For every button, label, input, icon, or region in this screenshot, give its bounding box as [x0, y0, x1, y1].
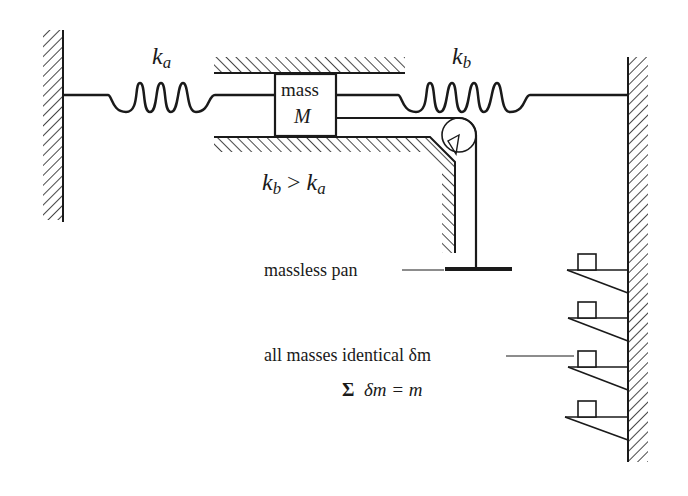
spring-a-label: ka — [152, 44, 171, 68]
mechanics-diagram — [0, 0, 688, 496]
shelf-1 — [567, 254, 628, 293]
spring-b-label: kb — [452, 44, 471, 68]
shelf-4 — [565, 401, 628, 440]
spring-inequality: kb > ka — [262, 170, 326, 194]
top-guide-rail — [214, 57, 405, 73]
left-wall — [43, 30, 63, 222]
spring-a — [63, 83, 275, 112]
masses-note: all masses identical δm — [264, 346, 431, 364]
sum-note: Σ δm = m — [342, 380, 423, 399]
shelf-3 — [568, 351, 628, 390]
bottom-guide-rail — [214, 137, 455, 253]
mass-label-line2: M — [294, 106, 311, 126]
spring-b — [336, 83, 628, 112]
mass-label-line1: mass — [281, 80, 319, 99]
shelf-2 — [568, 302, 628, 341]
pan-label: massless pan — [264, 261, 358, 279]
pulley — [442, 118, 476, 154]
right-wall — [628, 57, 648, 462]
